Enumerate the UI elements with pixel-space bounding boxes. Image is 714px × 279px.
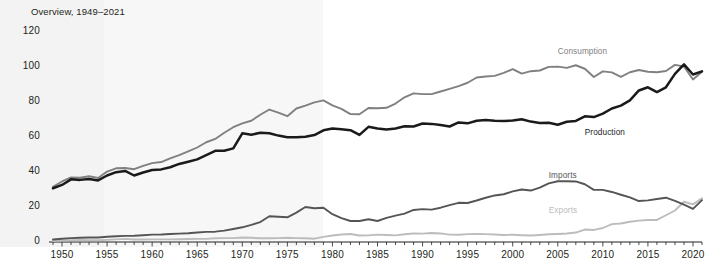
- series-label-production: Production: [585, 128, 625, 137]
- series-line-consumption: [53, 65, 702, 187]
- series-label-exports: Exports: [549, 206, 577, 215]
- series-line-production: [53, 64, 702, 188]
- plot-area: [0, 0, 714, 279]
- energy-overview-chart: Overview, 1949–2021 020406080100120 1950…: [0, 0, 714, 279]
- series-label-imports: Imports: [549, 171, 577, 180]
- series-label-consumption: Consumption: [558, 47, 607, 56]
- series-line-imports: [53, 181, 702, 239]
